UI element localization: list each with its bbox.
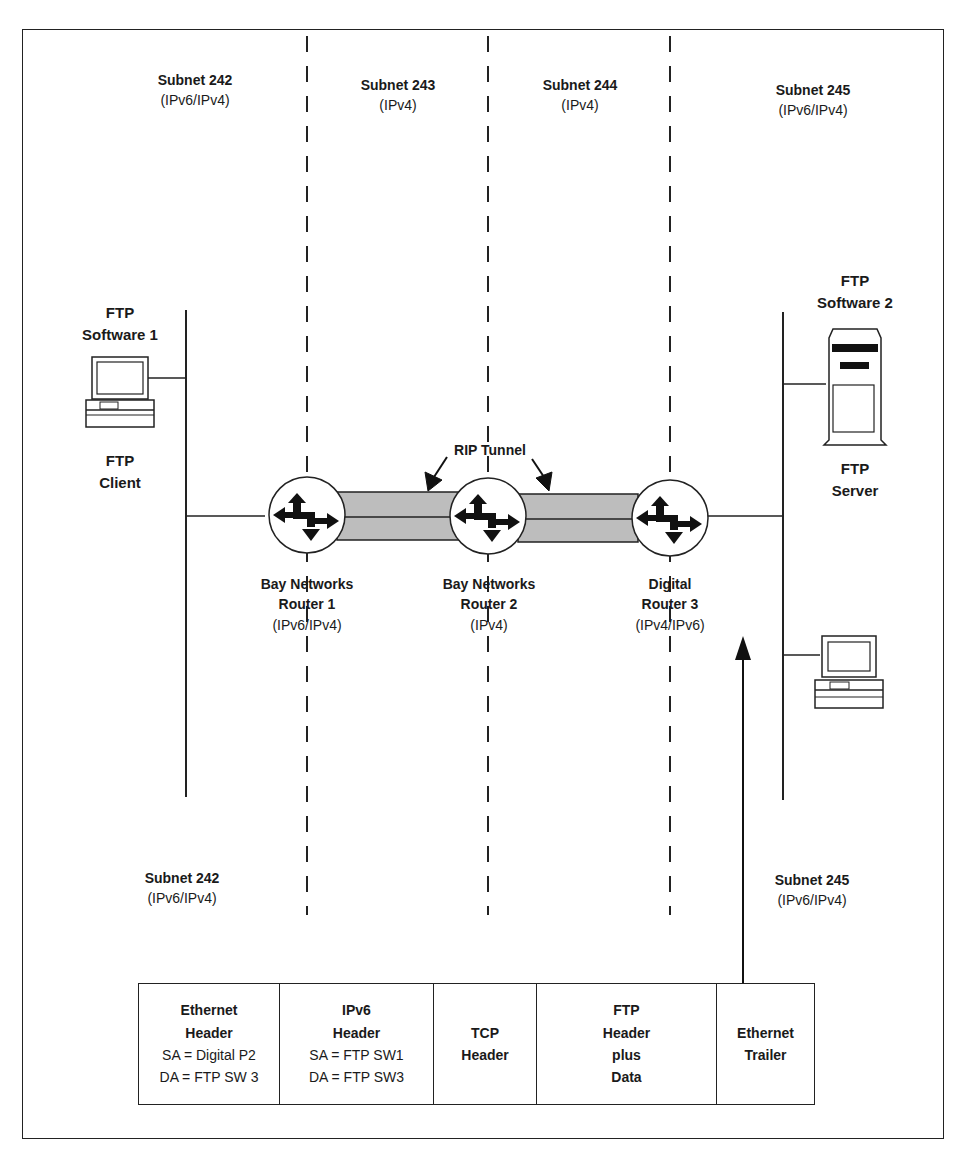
tunnel-label: RIP Tunnel bbox=[430, 440, 550, 460]
subnet-label: Subnet 245 (IPv6/IPv4) bbox=[758, 80, 868, 121]
subnet-label: Subnet 243 (IPv4) bbox=[343, 75, 453, 116]
workstation-computer-icon bbox=[815, 636, 883, 708]
packet-format: Ethernet Header SA = Digital P2 DA = FTP… bbox=[138, 983, 815, 1105]
client-computer-icon bbox=[86, 357, 154, 427]
packet-direction-arrow bbox=[735, 636, 751, 983]
server-software-label: FTP Software 2 bbox=[800, 270, 910, 314]
server-tower-icon bbox=[824, 329, 886, 445]
packet-field-ipv6-header: IPv6 Header SA = FTP SW1 DA = FTP SW3 bbox=[280, 984, 434, 1104]
server-role-label: FTP Server bbox=[800, 458, 910, 502]
router-icon bbox=[269, 477, 345, 553]
client-role-label: FTP Client bbox=[70, 450, 170, 494]
subnet-label: Subnet 242 (IPv6/IPv4) bbox=[127, 868, 237, 909]
subnet-boundaries bbox=[307, 36, 670, 915]
router-label: Bay Networks Router 2 (IPv4) bbox=[424, 574, 554, 635]
subnet-label: Subnet 244 (IPv4) bbox=[525, 75, 635, 116]
packet-field-ethernet-trailer: Ethernet Trailer bbox=[717, 984, 814, 1104]
packet-field-ftp-data: FTP Header plus Data bbox=[537, 984, 717, 1104]
subnet-label: Subnet 242 (IPv6/IPv4) bbox=[140, 70, 250, 111]
packet-field-tcp-header: TCP Header bbox=[434, 984, 537, 1104]
router-icon bbox=[450, 478, 526, 554]
packet-field-ethernet-header: Ethernet Header SA = Digital P2 DA = FTP… bbox=[139, 984, 280, 1104]
subnet-label: Subnet 245 (IPv6/IPv4) bbox=[757, 870, 867, 911]
router-label: Digital Router 3 (IPv4/IPv6) bbox=[605, 574, 735, 635]
router-icon bbox=[632, 480, 708, 556]
router-label: Bay Networks Router 1 (IPv6/IPv4) bbox=[242, 574, 372, 635]
client-software-label: FTP Software 1 bbox=[70, 302, 170, 346]
